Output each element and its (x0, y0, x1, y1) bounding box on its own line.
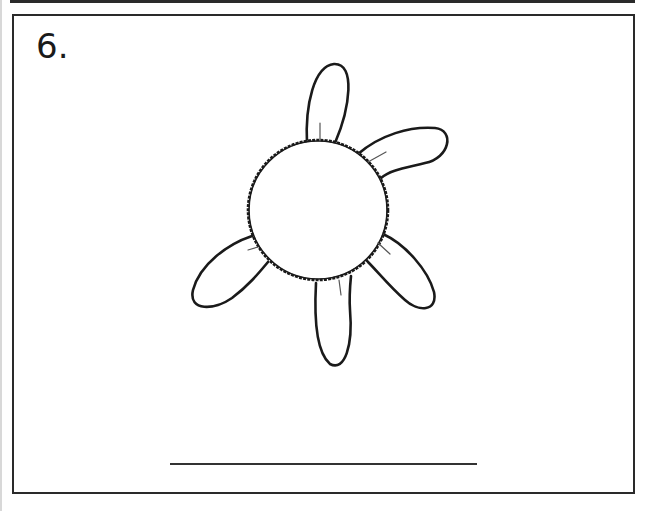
petal-left (192, 236, 268, 307)
petal-top (307, 64, 349, 144)
flower-drawing (0, 0, 651, 511)
answer-line[interactable] (170, 463, 477, 465)
petal-bottom (315, 276, 351, 365)
